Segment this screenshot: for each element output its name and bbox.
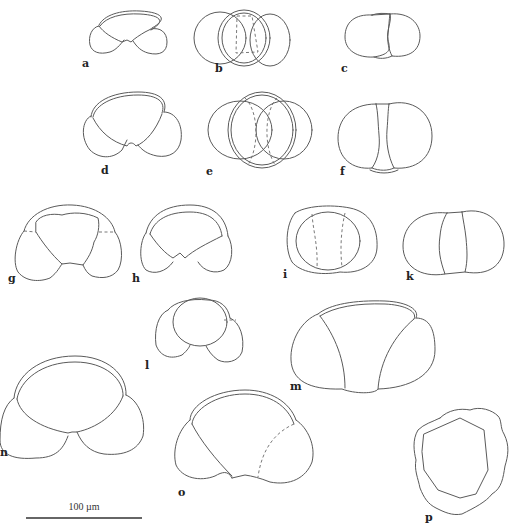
panel-label-m: n	[0, 446, 8, 459]
panel-label-o: o	[178, 486, 185, 499]
panel-label-b: b	[215, 62, 223, 75]
panel-label-p: p	[425, 511, 433, 524]
specimen-o: o	[175, 390, 313, 499]
specimen-figure: a b c d e	[0, 0, 514, 526]
specimen-p: p	[414, 408, 508, 524]
panel-label-i: l	[145, 359, 149, 372]
panel-label-l: k	[406, 270, 414, 283]
panel-label-f: f	[340, 165, 346, 178]
specimen-k: i	[283, 206, 377, 281]
specimen-h: h	[132, 205, 232, 285]
specimen-e: e	[206, 92, 312, 178]
specimen-f: f	[338, 103, 432, 178]
panel-label-g: g	[8, 272, 16, 285]
panel-label-e: e	[206, 165, 213, 178]
specimen-n: m	[290, 301, 435, 393]
panel-label-d: d	[101, 164, 109, 177]
scale-bar: 100 µm	[26, 501, 142, 518]
specimen-d: d	[83, 92, 181, 177]
specimen-l: k	[403, 211, 504, 283]
panel-label-k: i	[283, 268, 287, 281]
specimen-i: l	[145, 298, 243, 372]
specimen-m: n	[0, 356, 144, 459]
panel-label-h: h	[132, 272, 140, 285]
scale-bar-label: 100 µm	[68, 501, 99, 512]
specimen-b: b	[194, 10, 290, 75]
panel-label-c: c	[341, 62, 348, 75]
specimen-a: a	[82, 11, 167, 70]
specimen-g: g	[8, 205, 122, 285]
panel-label-n: m	[290, 380, 302, 393]
specimen-c: c	[341, 13, 420, 75]
panel-label-a: a	[82, 57, 89, 70]
